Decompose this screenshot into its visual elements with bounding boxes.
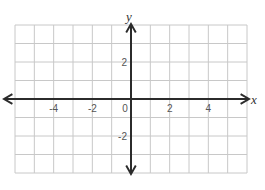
x-tick-label: -4	[49, 103, 58, 114]
x-tick-label: -2	[88, 103, 97, 114]
y-tick-label: 2	[121, 57, 127, 68]
axes	[4, 24, 249, 174]
y-axis-label: y	[124, 9, 132, 24]
x-axis-label: x	[250, 92, 257, 107]
y-tick-label: -2	[118, 131, 127, 142]
x-tick-label: 4	[206, 103, 212, 114]
coordinate-plane: -4-20242-2 x y	[0, 0, 265, 190]
x-tick-label: 0	[122, 103, 128, 114]
x-tick-label: 2	[167, 103, 173, 114]
